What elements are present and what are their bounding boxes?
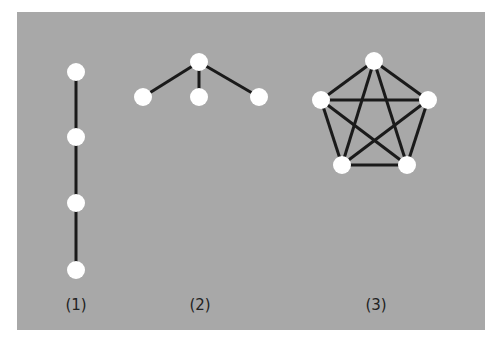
graph-1-label: (1) [65,296,86,314]
graph-node [190,53,208,71]
graph-edge [321,61,374,100]
graph-node [312,91,330,109]
graph-node [398,156,416,174]
graph-edge [321,100,407,165]
graph-edge [342,100,428,165]
graph-node [419,91,437,109]
graph-node [134,88,152,106]
graph-edge [342,61,374,165]
graph-node [365,52,383,70]
graph-edge [374,61,428,100]
graph-3-label: (3) [365,296,386,314]
graph-node [333,156,351,174]
graph-node [250,88,268,106]
graph-node [67,194,85,212]
graph-node [67,261,85,279]
graph-node [190,88,208,106]
graph-edge [143,62,199,97]
graph-2-label: (2) [189,296,210,314]
graph-edge [199,62,259,97]
graph-canvas [0,0,496,340]
graph-node [67,128,85,146]
graph-edge [374,61,407,165]
graph-node [67,63,85,81]
